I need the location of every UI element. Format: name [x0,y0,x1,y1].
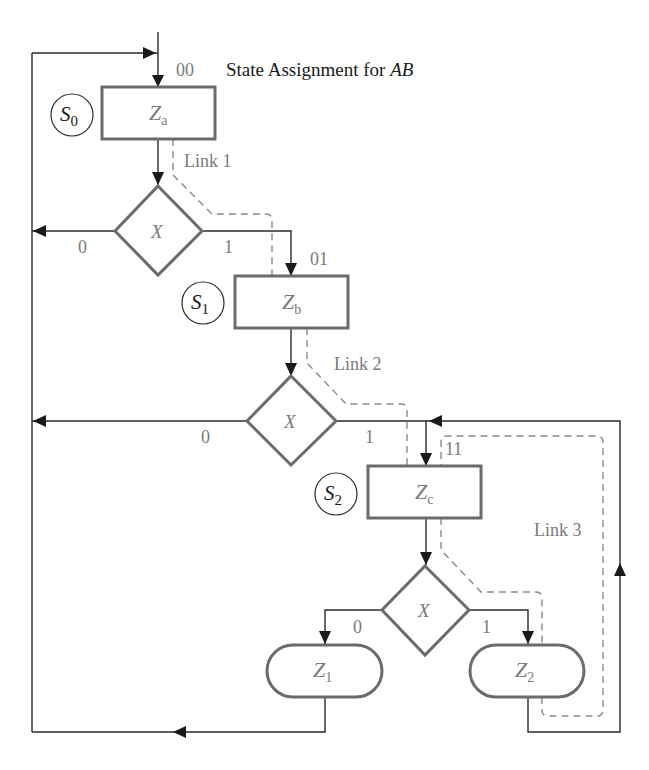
arrow-down-icon [420,453,432,466]
arrow-up-icon [614,563,626,576]
arrow-down-icon [522,631,534,644]
arrow-right-icon [143,47,156,59]
arrow-left-icon [173,726,186,738]
decision2-true-line [336,421,426,466]
link3-label: Link 3 [534,520,582,540]
state-box-s2: Zc [368,466,481,518]
state-box-s1: Zb [235,276,348,328]
decision-variable: X [150,221,164,242]
diagram-title: State Assignment for AB [226,59,414,80]
link2-label: Link 2 [334,354,382,374]
state-code-s0: 00 [176,60,194,80]
link2-path [307,328,407,466]
arrow-left-icon [33,415,46,427]
asm-chart: Za Zb Zc S0 S1 S2 00 01 11 State Assignm… [0,0,649,770]
state-label-s0: S0 [51,94,93,136]
decision-false-label: 0 [353,617,362,637]
link-paths [173,139,603,716]
conditional-output-z2: Z2 [470,645,584,697]
z1-return-line [32,697,325,732]
arrow-left-icon [429,415,442,427]
arrow-down-icon [152,75,164,87]
decision-variable: X [417,600,431,621]
arrow-left-icon [33,225,46,237]
arrow-down-icon [420,552,432,565]
state-code-s2: 11 [445,439,462,459]
state-label-s2: S2 [315,473,357,515]
state-box-s0: Za [102,87,215,139]
arrow-down-icon [319,631,331,644]
decision3-true-line [469,610,528,644]
arrowheads [33,47,626,738]
link1-label: Link 1 [184,151,232,171]
link3-path-down [441,518,542,645]
decision-false-label: 0 [201,427,210,447]
conditional-output-z1: Z1 [267,645,382,697]
decision-true-label: 1 [224,237,233,257]
decision1-true-line [202,231,291,276]
decision-false-label: 0 [78,237,87,257]
arrow-down-icon [152,172,164,185]
decision-variable: X [283,411,297,432]
state-code-s1: 01 [310,249,328,269]
decision-true-label: 1 [365,427,374,447]
decision-true-label: 1 [482,617,491,637]
state-label-s1: S1 [182,282,224,324]
arrow-down-icon [285,263,297,276]
